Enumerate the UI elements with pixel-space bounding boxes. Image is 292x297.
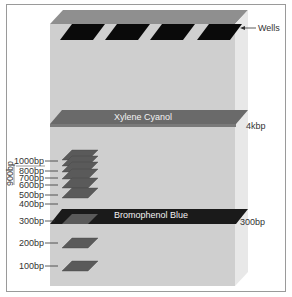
gel-side-face bbox=[235, 10, 248, 286]
wells-label: Wells bbox=[258, 23, 280, 33]
xylene-size-label: 4kbp bbox=[246, 121, 266, 131]
gel-illustration bbox=[0, 0, 292, 297]
bromophenol-size-label: 300bp bbox=[240, 217, 265, 227]
xylene-band-edge bbox=[50, 124, 236, 127]
gel-top-face bbox=[50, 10, 248, 24]
ladder-label-200: 200bp bbox=[4, 238, 44, 248]
ladder-label-600: 600bp bbox=[4, 180, 44, 190]
xylene-cyanol-label: Xylene Cyanol bbox=[114, 112, 172, 122]
ladder-label-1000: 1000bp bbox=[4, 156, 44, 166]
ladder-label-300: 300bp bbox=[4, 216, 44, 226]
ladder-label-100: 100bp bbox=[4, 261, 44, 271]
ladder-label-400: 400bp bbox=[4, 199, 44, 209]
bromophenol-blue-label: Bromophenol Blue bbox=[114, 210, 188, 220]
